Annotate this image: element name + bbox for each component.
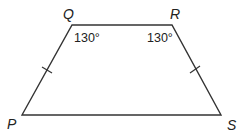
trapezoid-pqrs — [22, 25, 221, 115]
tick-mark-pq — [42, 67, 52, 73]
vertex-label-s: S — [227, 117, 237, 133]
vertex-label-p: P — [7, 116, 17, 132]
vertex-label-r: R — [170, 6, 180, 22]
angle-label-q: 130° — [74, 31, 100, 45]
trapezoid-diagram: Q R P S 130° 130° — [0, 0, 242, 134]
angle-label-r: 130° — [147, 31, 173, 45]
vertex-label-q: Q — [63, 6, 74, 22]
